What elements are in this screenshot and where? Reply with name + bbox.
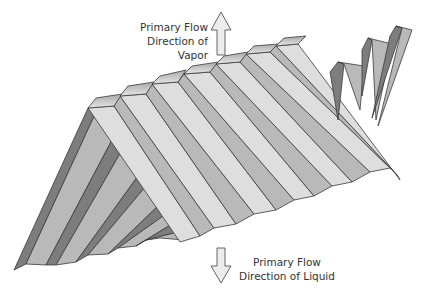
liquid-flow-label: Primary Flow Direction of Liquid bbox=[238, 255, 336, 283]
vapor-label-line-2: Direction of Vapor bbox=[140, 34, 208, 62]
liquid-label-line-2: Direction of Liquid bbox=[238, 269, 336, 283]
liquid-flow-arrow-icon bbox=[211, 248, 231, 283]
packing-diagram bbox=[0, 0, 424, 291]
vapor-label-line-1: Primary Flow bbox=[140, 20, 208, 34]
vapor-flow-arrow-icon bbox=[211, 12, 231, 55]
vapor-flow-label: Primary Flow Direction of Vapor bbox=[140, 20, 208, 62]
liquid-label-line-1: Primary Flow bbox=[238, 255, 336, 269]
